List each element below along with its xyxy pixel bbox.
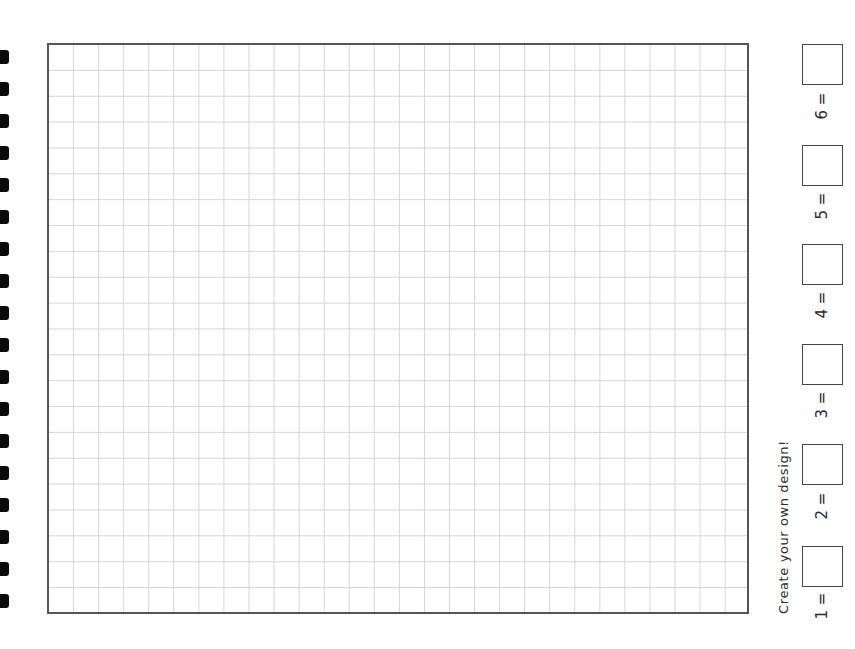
binding-hole	[0, 274, 9, 288]
color-key-box-1[interactable]	[802, 546, 843, 587]
binding-hole	[0, 338, 9, 352]
binding-hole	[0, 434, 9, 448]
color-key-box-3[interactable]	[802, 344, 843, 385]
color-key-box-4[interactable]	[802, 244, 843, 285]
color-key-label-6: 6 =	[813, 93, 831, 120]
color-key-label-4: 4 =	[813, 292, 831, 319]
binding-hole	[0, 402, 9, 416]
binding-hole	[0, 530, 9, 544]
binding-hole	[0, 114, 9, 128]
binding-hole	[0, 562, 9, 576]
color-key-box-5[interactable]	[802, 145, 843, 186]
binding-hole	[0, 306, 9, 320]
binding-hole	[0, 242, 9, 256]
page-title: Create your own design!	[776, 440, 791, 614]
color-key-label-5: 5 =	[813, 193, 831, 220]
drawing-grid[interactable]	[47, 43, 749, 614]
binding-hole	[0, 178, 9, 192]
color-key-box-2[interactable]	[802, 444, 843, 485]
color-key-label-3: 3 =	[813, 392, 831, 419]
color-key-box-6[interactable]	[802, 44, 843, 85]
binding-holes	[0, 0, 12, 649]
binding-hole	[0, 370, 9, 384]
binding-hole	[0, 210, 9, 224]
binding-hole	[0, 594, 9, 608]
color-key-label-1: 1 =	[813, 593, 831, 620]
binding-hole	[0, 466, 9, 480]
binding-hole	[0, 498, 9, 512]
color-key-label-2: 2 =	[813, 493, 831, 520]
binding-hole	[0, 50, 9, 64]
binding-hole	[0, 82, 9, 96]
binding-hole	[0, 146, 9, 160]
